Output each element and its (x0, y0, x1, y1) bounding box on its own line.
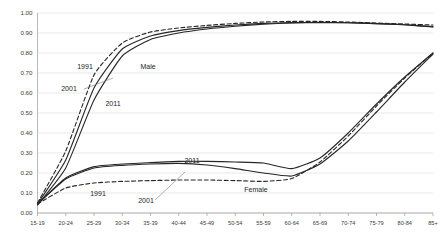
x-tick-label: 45-49 (200, 220, 214, 226)
y-tick-label: 0.70 (20, 69, 33, 76)
series-line-female-1991 (38, 53, 434, 204)
annotation-female-2011: 2011 (184, 157, 199, 164)
annotation-leader-lines (84, 78, 185, 200)
y-tick-label: 0.50 (20, 109, 33, 116)
annotation-male-2011: 2011 (105, 100, 120, 107)
annotation-male-group: Male (140, 63, 155, 70)
x-tick-label: 40-44 (172, 220, 186, 226)
annotation-female-group: Female (244, 186, 267, 193)
x-tick-label: 60-64 (285, 220, 299, 226)
y-tick-label: 0.20 (20, 169, 33, 176)
y-tick-label: 0.30 (20, 149, 33, 156)
x-tick-label: 85+ (428, 220, 438, 226)
series-line-female-2001 (38, 54, 434, 204)
x-tick-label: 25-29 (87, 220, 101, 226)
y-tick-label: 0.00 (20, 209, 33, 216)
x-tick-label: 80-84 (398, 220, 412, 226)
y-tick-label: 0.10 (20, 189, 33, 196)
chart-container: 0.000.100.200.300.400.500.600.700.800.90… (0, 0, 442, 243)
y-tick-label: 0.60 (20, 89, 33, 96)
y-tick-label: 1.00 (20, 9, 33, 16)
annotation-male-1991: 1991 (77, 63, 93, 70)
x-tick-label: 55-59 (256, 220, 270, 226)
gridlines (38, 13, 434, 213)
x-tick-label: 15-19 (30, 220, 44, 226)
x-axis-tick-labels: 15-1920-2425-2930-3435-3940-4445-4950-54… (30, 220, 437, 226)
series-line-female-2011 (38, 53, 434, 204)
y-tick-label: 0.80 (20, 49, 33, 56)
annotation-female-1991: 1991 (90, 190, 106, 197)
y-axis-tick-labels: 0.000.100.200.300.400.500.600.700.800.90… (20, 9, 33, 216)
line-chart: 0.000.100.200.300.400.500.600.700.800.90… (0, 0, 442, 243)
x-tick-label: 65-69 (313, 220, 327, 226)
annotation-female-2001: 2001 (138, 197, 154, 204)
leader-line (155, 172, 185, 200)
y-tick-label: 0.90 (20, 29, 33, 36)
series-line-male-1991 (38, 21, 434, 203)
x-axis-tickmarks (38, 213, 434, 216)
x-tick-label: 70-74 (341, 220, 355, 226)
x-tick-label: 75-79 (369, 220, 383, 226)
x-tick-label: 35-39 (143, 220, 157, 226)
x-tick-label: 30-34 (115, 220, 129, 226)
series-line-male-2011 (38, 23, 434, 205)
y-tick-label: 0.40 (20, 129, 33, 136)
annotation-male-2001: 2001 (61, 85, 77, 92)
x-tick-label: 50-54 (228, 220, 242, 226)
x-tick-label: 20-24 (59, 220, 73, 226)
